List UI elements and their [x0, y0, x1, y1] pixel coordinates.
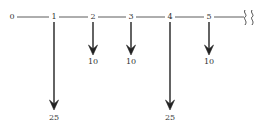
cash-flow-arrows — [50, 22, 214, 110]
arrow-period-5 — [205, 22, 214, 55]
amount-label-period-3: 10 — [125, 58, 137, 66]
amount-label-period-1: 25 — [48, 114, 60, 122]
arrow-period-4 — [166, 22, 175, 110]
amount-label-period-4: 25 — [164, 114, 176, 122]
amount-label-period-5: 10 — [203, 58, 215, 66]
period-label-0: 0 — [8, 13, 15, 21]
period-label-2: 2 — [89, 13, 96, 21]
break-icon — [245, 10, 253, 25]
period-label-1: 1 — [50, 13, 57, 21]
arrow-period-2 — [89, 22, 98, 55]
amount-label-period-2: 10 — [87, 58, 99, 66]
cash-flow-diagram: 0 1 2 3 4 5 25 10 10 25 10 — [0, 0, 268, 129]
period-label-4: 4 — [166, 13, 173, 21]
arrow-period-3 — [127, 22, 136, 55]
period-label-3: 3 — [127, 13, 134, 21]
period-label-5: 5 — [205, 13, 212, 21]
arrow-period-1 — [50, 22, 59, 110]
